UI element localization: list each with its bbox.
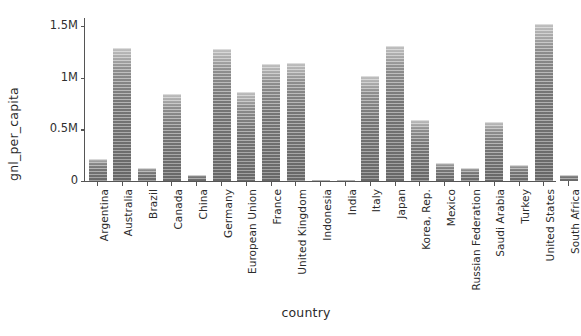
x-tick-mark <box>171 181 172 186</box>
y-tick-mark <box>81 181 85 182</box>
x-tick-mark <box>97 181 98 186</box>
bar <box>113 48 131 181</box>
x-tick-label: India <box>346 189 358 215</box>
x-tick-mark <box>395 181 396 186</box>
bar-shading <box>113 48 131 181</box>
x-tick-label: United Kingdom <box>296 189 308 275</box>
bar-shading <box>237 92 255 181</box>
bar <box>138 168 156 181</box>
x-tick-mark <box>370 181 371 186</box>
bar-shading <box>485 122 503 181</box>
x-tick-label: Australia <box>122 189 134 236</box>
bar <box>262 64 280 181</box>
x-tick-label: China <box>197 189 209 220</box>
bar-shading <box>188 175 206 181</box>
bar <box>461 168 479 181</box>
x-tick-label: Germany <box>222 189 234 238</box>
x-tick-label: Canada <box>172 189 184 230</box>
bar-shading <box>510 165 528 181</box>
bar <box>89 159 107 181</box>
bar <box>361 76 379 181</box>
x-tick-mark <box>519 181 520 186</box>
bar <box>560 175 578 181</box>
bar <box>188 175 206 181</box>
bar-shading <box>411 120 429 181</box>
x-tick-label: Argentina <box>98 189 110 241</box>
bar-shading <box>89 159 107 181</box>
x-tick-label: European Union <box>246 189 258 274</box>
x-tick-mark <box>345 181 346 186</box>
bar-shading <box>461 168 479 181</box>
bar-shading <box>337 180 355 181</box>
x-tick-mark <box>271 181 272 186</box>
x-tick-mark <box>246 181 247 186</box>
x-tick-mark <box>295 181 296 186</box>
x-tick-mark <box>444 181 445 186</box>
bar-shading <box>287 63 305 181</box>
bar <box>510 165 528 181</box>
x-tick-label: Russian Federation <box>470 189 482 290</box>
x-tick-mark <box>568 181 569 186</box>
bar <box>287 63 305 181</box>
bar-series <box>0 0 568 181</box>
bar <box>386 46 404 181</box>
x-tick-label: Saudi Arabia <box>494 189 506 257</box>
x-tick-mark <box>320 181 321 186</box>
x-tick-mark <box>196 181 197 186</box>
x-tick-mark <box>469 181 470 186</box>
bar-shading <box>535 24 553 181</box>
x-tick-label: Brazil <box>147 189 159 219</box>
x-tick-mark <box>494 181 495 186</box>
x-tick-label: Italy <box>370 189 382 212</box>
bar <box>312 180 330 181</box>
x-tick-mark <box>543 181 544 186</box>
bar <box>163 94 181 181</box>
bar-shading <box>262 64 280 181</box>
bar <box>436 163 454 181</box>
bar-shading <box>560 175 578 181</box>
bar-shading <box>138 168 156 181</box>
x-tick-mark <box>147 181 148 186</box>
x-tick-mark <box>122 181 123 186</box>
x-tick-label: South Africa <box>569 189 581 254</box>
x-tick-label: Korea, Rep. <box>420 189 432 250</box>
bar-shading <box>213 49 231 181</box>
bar <box>337 180 355 181</box>
x-tick-label: Mexico <box>445 189 457 226</box>
bar-shading <box>361 76 379 181</box>
bar <box>411 120 429 181</box>
bar-shading <box>312 180 330 181</box>
bar <box>485 122 503 181</box>
x-tick-label: Japan <box>395 189 407 219</box>
bar-shading <box>386 46 404 181</box>
x-tick-label: United States <box>544 189 556 261</box>
x-tick-mark <box>419 181 420 186</box>
bar <box>237 92 255 181</box>
bar <box>535 24 553 181</box>
x-tick-label: Indonesia <box>321 189 333 241</box>
x-tick-label: France <box>271 189 283 225</box>
bar-shading <box>436 163 454 181</box>
x-tick-label: Turkey <box>519 189 531 224</box>
bar <box>213 49 231 181</box>
x-axis-label: country <box>0 305 568 320</box>
x-tick-mark <box>221 181 222 186</box>
bar-shading <box>163 94 181 181</box>
